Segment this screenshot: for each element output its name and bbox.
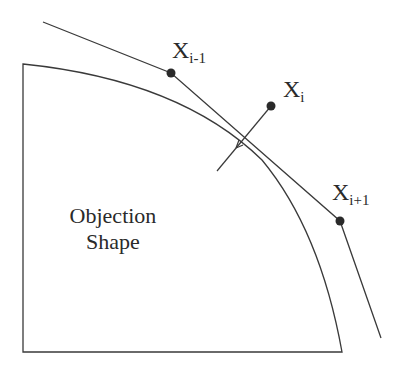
label-x-prev: Xi-1 <box>172 37 206 66</box>
contour-polyline <box>43 22 381 338</box>
shape-label-line1: Objection <box>70 203 157 228</box>
point-x-cur <box>267 102 276 111</box>
label-x-next: Xi+1 <box>332 179 369 208</box>
point-x-prev <box>167 69 176 78</box>
point-x-next <box>336 217 345 226</box>
shape-label-line2: Shape <box>86 229 140 254</box>
diagram-canvas: Xi-1 Xi Xi+1 Objection Shape <box>0 0 400 366</box>
label-x-cur: Xi <box>283 76 305 105</box>
